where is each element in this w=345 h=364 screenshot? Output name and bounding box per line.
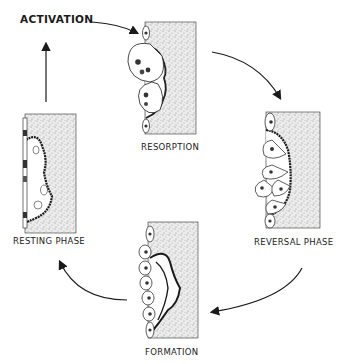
resorption-figure (128, 22, 196, 134)
arrow-resorption-to-reversal (212, 52, 280, 98)
label-formation: FORMATION (145, 347, 198, 357)
bone-remodeling-diagram: ACTIVATION RESORPTION REVERSAL PHASE FOR… (0, 0, 345, 364)
formation-figure (139, 222, 198, 338)
label-activation: ACTIVATION (20, 13, 93, 25)
arrow-reversal-to-formation (212, 268, 302, 312)
label-reversal-phase: REVERSAL PHASE (254, 237, 333, 247)
diagram-canvas (0, 0, 345, 364)
arrow-activation-to-resorption (92, 22, 137, 33)
label-resorption: RESORPTION (141, 142, 199, 152)
resting-figure (23, 114, 76, 233)
reversal-figure (255, 112, 320, 228)
label-resting-phase: RESTING PHASE (13, 236, 85, 246)
arrow-formation-to-resting (60, 262, 127, 300)
